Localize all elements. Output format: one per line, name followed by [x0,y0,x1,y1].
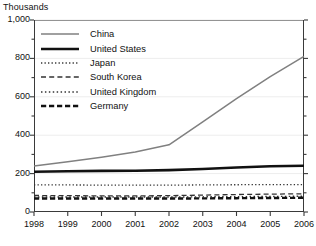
legend-swatch-germany [40,100,80,112]
legend-item-united-states: United States [40,41,156,55]
y-tick-400: 400 [0,129,30,139]
legend-label-united-states: United States [90,44,146,54]
legend-item-united-kingdom: United Kingdom [40,85,156,99]
series-line-germany [34,198,304,199]
series-line-japan [34,185,304,186]
legend-item-china: China [40,27,156,41]
legend-label-united-kingdom: United Kingdom [90,87,156,97]
legend-swatch-japan [40,57,80,69]
x-tick-2006: 2006 [284,219,316,229]
legend-item-south-korea: South Korea [40,70,156,84]
legend-label-south-korea: South Korea [90,72,142,82]
y-tick-200: 200 [0,168,30,178]
legend-swatch-china [40,28,80,40]
line-chart: Thousands 02004006008001,000 19981999200… [0,0,316,246]
y-tick-800: 800 [0,52,30,62]
y-tick-0: 0 [0,206,30,216]
legend-swatch-south-korea [40,71,80,83]
legend-label-china: China [90,29,114,39]
legend-label-germany: Germany [90,101,128,111]
legend-item-germany: Germany [40,99,156,113]
legend-label-japan: Japan [90,58,115,68]
y-tick-1000: 1,000 [0,14,30,24]
series-line-united-kingdom [34,196,304,197]
y-tick-600: 600 [0,91,30,101]
chart-legend: China United States Japan South Korea Un… [40,27,156,113]
series-line-south-korea [34,194,304,196]
legend-swatch-united-states [40,43,80,55]
series-line-united-states [34,166,304,172]
legend-item-japan: Japan [40,56,156,70]
legend-swatch-united-kingdom [40,86,80,98]
